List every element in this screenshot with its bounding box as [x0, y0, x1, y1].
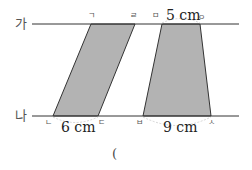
vertex-label-siot: ㅅ: [208, 119, 215, 127]
vertex-label-mieum: ㅁ: [152, 12, 159, 20]
trapezoid-shape: [143, 24, 211, 116]
diagram: 가 나 ㄱ ㄹ ㄷ ㄴ 6 cm ㅁ ㅇ ㅅ ㅂ 5 cm 9 cm (: [0, 0, 252, 170]
vertex-label-nieun: ㄴ: [45, 119, 52, 127]
vertex-label-bieup: ㅂ: [136, 119, 143, 127]
diagram-graphic: [0, 0, 252, 170]
trapezoid-base-length: 9 cm: [163, 120, 197, 134]
vertex-label-digeut: ㄷ: [98, 119, 105, 127]
line-label-na: 나: [15, 109, 27, 122]
vertex-label-giyeok: ㄱ: [88, 12, 95, 20]
answer-parenthesis: (: [112, 147, 117, 160]
parallelogram-base-length: 6 cm: [61, 120, 95, 134]
parallelogram-shape: [53, 24, 135, 116]
line-label-ga: 가: [15, 17, 27, 30]
trapezoid-top-length: 5 cm: [166, 8, 200, 22]
vertex-label-rieul: ㄹ: [130, 12, 137, 20]
